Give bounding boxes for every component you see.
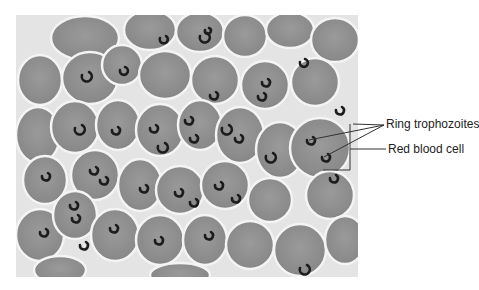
label-ring-trophozoites: Ring trophozoites (386, 117, 479, 131)
label-red-blood-cell: Red blood cell (388, 142, 464, 156)
micrograph-photo (16, 10, 365, 287)
